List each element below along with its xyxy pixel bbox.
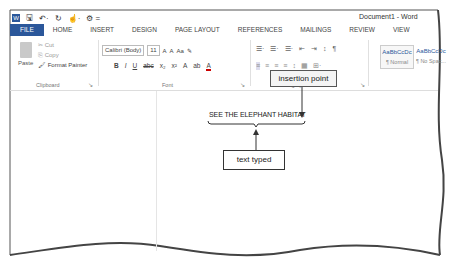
insertion-point-callout: insertion point (270, 70, 337, 87)
callout-arrows (0, 0, 453, 267)
text-typed-callout: text typed (223, 150, 285, 170)
